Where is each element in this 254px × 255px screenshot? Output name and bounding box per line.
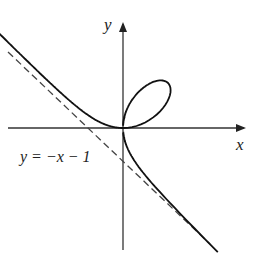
y-axis-label: y [102,15,112,34]
asymptote-label: y = −x − 1 [18,148,91,166]
folium-diagram: y x y = −x − 1 [0,0,254,255]
folium-curve [0,31,218,252]
x-axis-label: x [235,135,244,154]
